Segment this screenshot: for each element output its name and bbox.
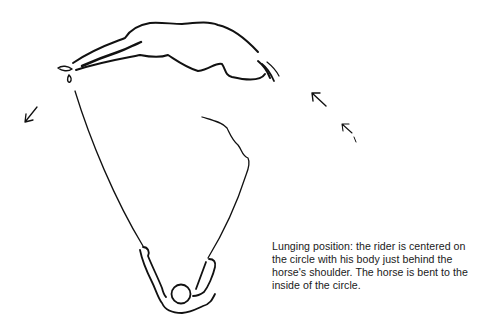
rider-drawing bbox=[140, 247, 215, 313]
horse-drawing bbox=[58, 23, 279, 83]
caption-line: the circle with his body just behind the bbox=[272, 253, 484, 266]
arrow-icon bbox=[342, 124, 356, 142]
caption-line: Lunging position: the rider is centered … bbox=[272, 240, 484, 253]
caption-line: inside of the circle. bbox=[272, 279, 484, 292]
arrow-icon bbox=[25, 107, 37, 122]
direction-arrows bbox=[25, 93, 356, 142]
lunge-lines bbox=[75, 91, 249, 258]
caption-line: horse's shoulder. The horse is bent to t… bbox=[272, 266, 484, 279]
figure-caption: Lunging position: the rider is centered … bbox=[272, 240, 484, 292]
arrow-icon bbox=[312, 93, 326, 106]
